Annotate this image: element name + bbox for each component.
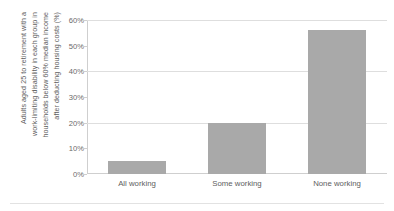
y-axis-title: Adults aged 25 to retirement with a work… <box>8 12 58 180</box>
bar-slot <box>187 20 287 174</box>
x-axis-category-labels: All workingSome workingNone working <box>87 179 387 188</box>
x-category-label: Some working <box>187 179 287 188</box>
bar[interactable] <box>208 123 266 174</box>
x-category-label: None working <box>287 179 387 188</box>
x-category-label: All working <box>87 179 187 188</box>
y-tick-label: 0% <box>52 170 84 179</box>
bar-chart-figure: Adults aged 25 to retirement with a work… <box>0 0 394 211</box>
bar-slot <box>87 20 187 174</box>
plot-area <box>87 20 387 174</box>
y-tick-label: 20% <box>52 118 84 127</box>
bar[interactable] <box>308 30 366 174</box>
y-tick-label: 60% <box>52 16 84 25</box>
y-tick-label: 40% <box>52 67 84 76</box>
y-tick-label: 30% <box>52 93 84 102</box>
bar-slot <box>287 20 387 174</box>
bottom-divider <box>10 203 384 204</box>
y-axis-tick-labels: 0%10%20%30%40%50%60% <box>52 0 84 211</box>
bar-series <box>87 20 387 174</box>
y-tick-label: 50% <box>52 41 84 50</box>
bar[interactable] <box>108 161 166 174</box>
y-tickmark <box>83 174 87 175</box>
y-tick-label: 10% <box>52 144 84 153</box>
